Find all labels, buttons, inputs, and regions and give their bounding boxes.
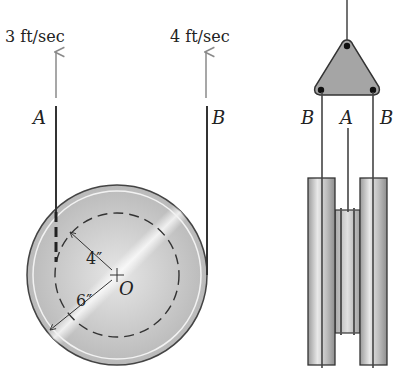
side-center-rope-label: A [338, 107, 353, 128]
pulley-hub [335, 210, 360, 333]
side-view: B A B [300, 0, 393, 368]
inner-radius-label: 4″ [86, 249, 102, 268]
outer-radius-label: 6″ [76, 291, 92, 310]
center-label: O [119, 278, 134, 299]
rope-a-label: A [31, 107, 46, 128]
yoke-pin-top [344, 43, 350, 49]
velocity-label-a: 3 ft/sec [5, 27, 65, 46]
rope-b-label: B [211, 107, 225, 128]
side-left-rope-label: B [300, 107, 314, 128]
front-view: 3 ft/sec 4 ft/sec A B O 4″ 6″ [5, 27, 230, 365]
velocity-label-b: 4 ft/sec [170, 27, 230, 46]
side-right-rope-label: B [379, 107, 393, 128]
yoke-pin-left [318, 87, 324, 93]
pulley-diagram: 3 ft/sec 4 ft/sec A B O 4″ 6″ [0, 0, 414, 388]
